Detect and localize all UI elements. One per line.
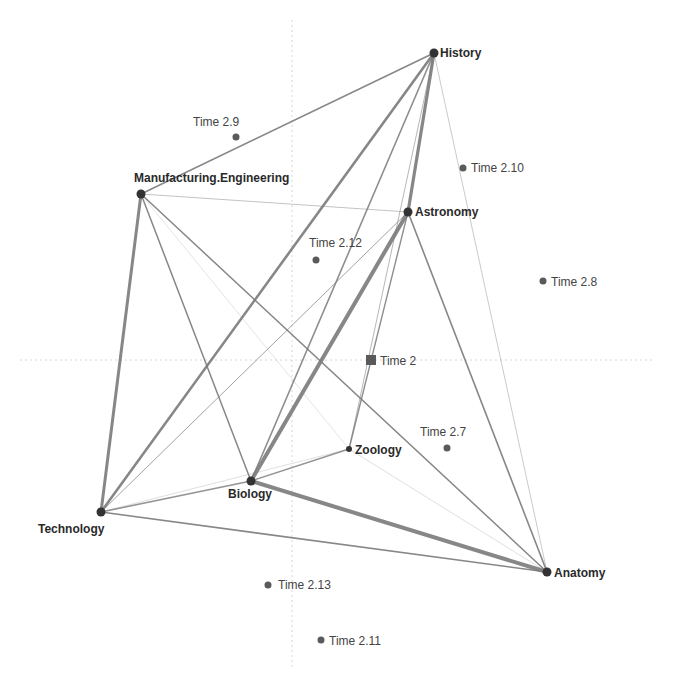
network-diagram: Time 2.9Time 2.10Time 2.12Time 2.8Time 2… — [0, 0, 675, 680]
time-point: Time 2.11 — [318, 634, 382, 648]
node-dot-icon — [247, 477, 256, 486]
time-point-label: Time 2.13 — [278, 578, 331, 592]
node-dot-icon — [137, 190, 146, 199]
dot-marker-icon — [444, 445, 451, 452]
time-point-label: Time 2.7 — [420, 425, 467, 439]
edge-technology-anatomy — [101, 512, 547, 572]
dot-marker-icon — [233, 134, 240, 141]
node-label: Manufacturing.Engineering — [134, 171, 289, 185]
node-dot-icon — [543, 568, 552, 577]
time-point-label: Time 2.9 — [193, 115, 240, 129]
edge-astronomy-technology — [101, 212, 408, 512]
edge-astronomy-biology — [251, 212, 408, 481]
node-dot-icon — [97, 508, 106, 517]
time-point-label: Time 2.12 — [309, 236, 362, 250]
dot-marker-icon — [313, 257, 320, 264]
node-dot-icon — [404, 208, 413, 217]
edge-me-zoology — [141, 194, 349, 449]
node-dot-icon — [346, 446, 352, 452]
edge-me-biology — [141, 194, 251, 481]
time-point-label: Time 2.11 — [329, 634, 381, 648]
node-history: History — [430, 46, 482, 60]
square-marker-icon — [366, 355, 376, 365]
node-label: Technology — [38, 522, 105, 536]
node-label: Anatomy — [554, 566, 606, 580]
dot-marker-icon — [460, 165, 467, 172]
dot-marker-icon — [265, 582, 272, 589]
node-technology: Technology — [38, 508, 106, 537]
time-point-label: Time 2.8 — [551, 275, 598, 289]
time-point: Time 2 — [366, 354, 417, 368]
time-point: Time 2.8 — [540, 275, 598, 289]
edge-history-anatomy — [434, 53, 547, 572]
dot-marker-icon — [540, 278, 547, 285]
edge-history-astronomy — [408, 53, 434, 212]
nodes: HistoryManufacturing.EngineeringAstronom… — [38, 46, 606, 580]
node-astronomy: Astronomy — [404, 205, 479, 219]
time-point-label: Time 2.10 — [471, 161, 524, 175]
node-anatomy: Anatomy — [543, 566, 606, 580]
dot-marker-icon — [318, 637, 325, 644]
node-dot-icon — [430, 49, 439, 58]
node-label: Biology — [228, 487, 272, 501]
edge-astronomy-anatomy — [408, 212, 547, 572]
time-point: Time 2.13 — [265, 578, 332, 592]
node-zoology: Zoology — [346, 443, 402, 457]
node-me: Manufacturing.Engineering — [134, 171, 289, 199]
node-label: Zoology — [355, 443, 402, 457]
edge-zoology-anatomy — [349, 449, 547, 572]
edge-me-anatomy — [141, 194, 547, 572]
edges — [101, 53, 547, 572]
node-biology: Biology — [228, 477, 272, 502]
node-label: History — [440, 46, 482, 60]
time-point-label: Time 2 — [380, 354, 417, 368]
time-point: Time 2.9 — [193, 115, 240, 141]
time-point: Time 2.12 — [309, 236, 362, 264]
edge-biology-anatomy — [251, 481, 547, 572]
edge-technology-zoology — [101, 449, 349, 512]
node-label: Astronomy — [415, 205, 479, 219]
time-point: Time 2.10 — [460, 161, 525, 175]
time-point: Time 2.7 — [420, 425, 467, 452]
